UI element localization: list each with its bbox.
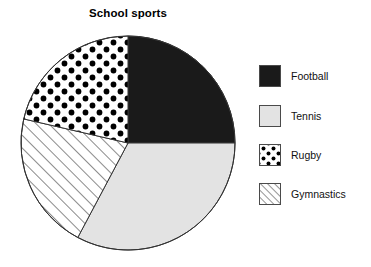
pie-slice-football[interactable] [128, 36, 235, 143]
pie-plot-area [10, 22, 246, 262]
chart-legend: Football Tennis Rugby [259, 64, 369, 204]
legend-item-football[interactable]: Football [259, 64, 328, 88]
chart-title: School sports [0, 6, 256, 20]
legend-item-rugby[interactable]: Rugby [259, 143, 321, 167]
legend-item-tennis[interactable]: Tennis [259, 104, 321, 128]
pie-slices [21, 36, 235, 250]
pie-svg [10, 22, 246, 262]
legend-label-football: Football [291, 70, 328, 82]
dotted-swatch [259, 144, 281, 166]
legend-item-gymnastics[interactable]: Gymnastics [259, 182, 346, 206]
pie-chart-figure: School sports [0, 0, 371, 267]
light-gray-swatch [259, 105, 281, 127]
legend-label-tennis: Tennis [291, 110, 321, 122]
solid-black-swatch [259, 65, 281, 87]
hatched-swatch [259, 183, 281, 205]
legend-label-rugby: Rugby [291, 149, 321, 161]
legend-label-gymnastics: Gymnastics [291, 188, 346, 200]
